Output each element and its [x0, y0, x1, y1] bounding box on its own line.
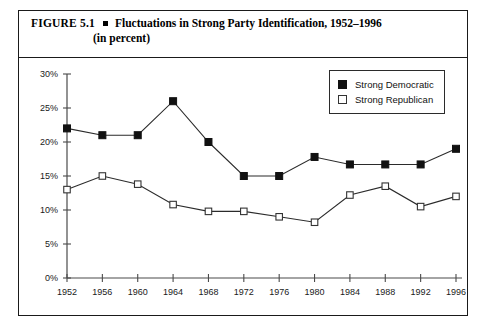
- data-point-marker: [134, 132, 141, 139]
- data-point-marker: [311, 153, 318, 160]
- data-point-marker: [170, 201, 177, 208]
- x-axis-tick-label: 1992: [411, 287, 431, 297]
- data-point-marker: [382, 183, 389, 190]
- filled-square-icon: [338, 80, 347, 89]
- y-axis-tick-label: 25%: [40, 103, 58, 113]
- data-point-marker: [99, 173, 106, 180]
- y-axis-tick-label: 0%: [45, 273, 58, 283]
- data-point-marker: [382, 161, 389, 168]
- x-axis-tick-label: 1952: [57, 287, 77, 297]
- x-axis-tick-label: 1976: [269, 287, 289, 297]
- plot-area: 0%5%10%15%20%25%30% 19521956196019641968…: [19, 58, 467, 314]
- legend-item-strong-republican: Strong Republican: [338, 92, 434, 107]
- y-axis-tick-label: 30%: [40, 69, 58, 79]
- x-axis-tick-label: 1972: [234, 287, 254, 297]
- data-point-marker: [205, 208, 212, 215]
- figure-frame: FIGURE 5.1 Fluctuations in Strong Party …: [18, 10, 468, 316]
- x-axis-tick-label: 1988: [375, 287, 395, 297]
- x-axis-tick-label: 1996: [446, 287, 466, 297]
- legend-item-strong-democratic: Strong Democratic: [338, 77, 434, 92]
- chart-legend: Strong Democratic Strong Republican: [329, 70, 445, 114]
- data-point-marker: [241, 208, 248, 215]
- data-point-marker: [347, 192, 354, 199]
- y-axis-tick-label: 15%: [40, 171, 58, 181]
- data-point-marker: [276, 214, 283, 221]
- data-point-marker: [64, 125, 71, 132]
- y-axis-tick-label: 5%: [45, 239, 58, 249]
- figure-subtitle-text: (in percent): [31, 31, 457, 46]
- data-point-marker: [64, 186, 71, 193]
- x-axis-tick-label: 1980: [305, 287, 325, 297]
- x-axis-tick-label: 1984: [340, 287, 360, 297]
- data-point-marker: [205, 139, 212, 146]
- x-axis-tick-label: 1964: [163, 287, 183, 297]
- data-point-marker: [311, 219, 318, 226]
- open-square-icon: [338, 95, 347, 104]
- data-series-group: [64, 98, 460, 226]
- data-point-marker: [417, 161, 424, 168]
- data-point-marker: [134, 181, 141, 188]
- x-axis-tick-label: 1968: [198, 287, 218, 297]
- data-point-marker: [346, 161, 353, 168]
- data-point-marker: [417, 203, 424, 210]
- data-point-marker: [240, 173, 247, 180]
- square-bullet-icon: [103, 21, 108, 26]
- legend-label-democratic: Strong Democratic: [355, 79, 434, 90]
- series-line-strong-republican: [67, 176, 456, 222]
- data-point-marker: [99, 132, 106, 139]
- legend-label-republican: Strong Republican: [355, 94, 433, 105]
- data-point-marker: [453, 145, 460, 152]
- figure-title-band: FIGURE 5.1 Fluctuations in Strong Party …: [19, 11, 467, 58]
- x-axis-tick-label: 1960: [128, 287, 148, 297]
- figure-title-text: Fluctuations in Strong Party Identificat…: [115, 16, 382, 31]
- data-point-marker: [276, 173, 283, 180]
- data-point-marker: [453, 193, 460, 200]
- y-axis-tick-label: 10%: [40, 205, 58, 215]
- y-axis: 0%5%10%15%20%25%30%: [40, 69, 71, 283]
- x-axis: 1952195619601964196819721976198019841988…: [57, 274, 466, 297]
- figure-title-line-1: FIGURE 5.1 Fluctuations in Strong Party …: [31, 16, 457, 31]
- x-axis-tick-label: 1956: [92, 287, 112, 297]
- figure-number-label: FIGURE 5.1: [31, 16, 95, 31]
- data-point-marker: [170, 98, 177, 105]
- y-axis-tick-label: 20%: [40, 137, 58, 147]
